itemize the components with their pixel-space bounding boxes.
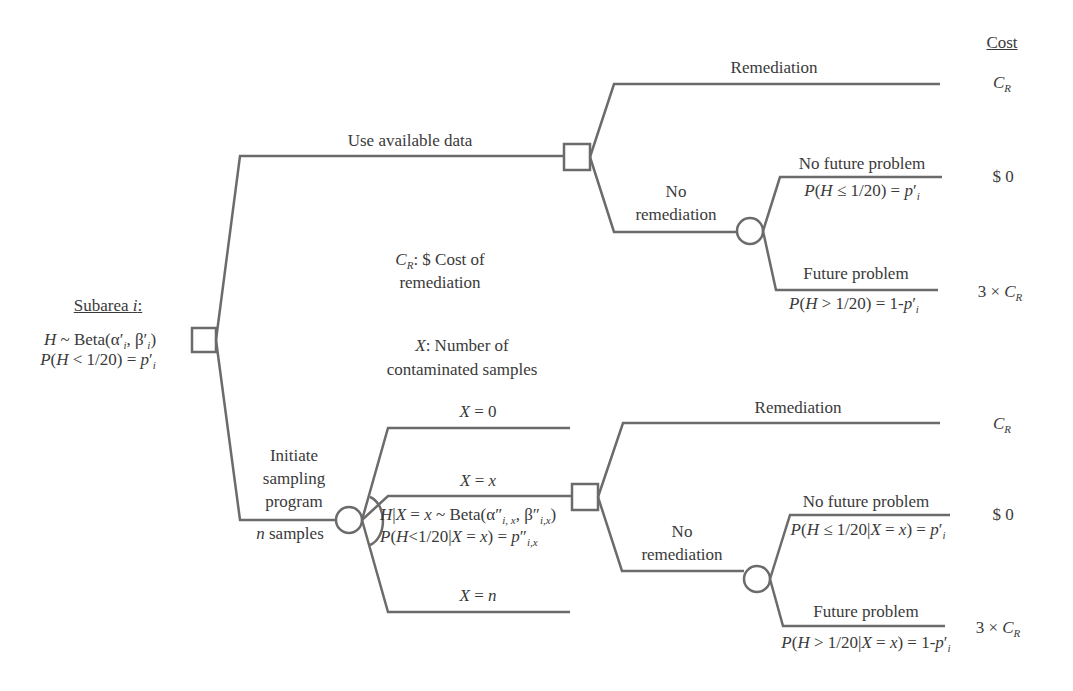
root-prob: P(H < 1/20) = p′i bbox=[40, 350, 156, 375]
cost-3cr-top: 3 × CR bbox=[978, 282, 1023, 307]
cr-definition-line2: remediation bbox=[399, 273, 480, 293]
branch-remediation-top[interactable] bbox=[590, 84, 940, 157]
cost-3cr-bottom: 3 × CR bbox=[976, 618, 1021, 643]
decision-tree-lines bbox=[0, 0, 1073, 691]
outcome-x-x: X = x bbox=[460, 471, 496, 491]
outcome-x-0: X = 0 bbox=[460, 402, 497, 422]
cost-cr-bottom: CR bbox=[993, 414, 1011, 439]
sampling-decision-node[interactable] bbox=[572, 484, 598, 510]
root-title: Subarea i: bbox=[74, 296, 142, 316]
program-label: program bbox=[265, 492, 323, 512]
no-future-problem-prob-top: P(H ≤ 1/20) = p′i bbox=[804, 181, 919, 206]
available-data-decision-node[interactable] bbox=[564, 144, 590, 170]
cr-definition-line1: CR: $ Cost of bbox=[395, 250, 484, 275]
future-problem-label-bottom: Future problem bbox=[813, 602, 918, 622]
no-future-problem-label-bottom: No future problem bbox=[803, 492, 930, 512]
use-available-data-label: Use available data bbox=[348, 131, 473, 151]
no-future-problem-prob-bottom: P(H ≤ 1/20|X = x) = p′i bbox=[791, 520, 946, 545]
x-definition-line2: contaminated samples bbox=[387, 360, 538, 380]
sampling-label: sampling bbox=[263, 469, 325, 489]
x-definition-line1: X: Number of bbox=[415, 336, 508, 356]
available-data-chance-node[interactable] bbox=[737, 218, 763, 244]
root-decision-node[interactable] bbox=[192, 328, 216, 352]
future-problem-label-top: Future problem bbox=[803, 264, 908, 284]
no-future-problem-label-top: No future problem bbox=[799, 154, 926, 174]
initiate-label: Initiate bbox=[270, 446, 318, 466]
outcome-x-n: X = n bbox=[460, 586, 497, 606]
cost-cr-top: CR bbox=[993, 73, 1011, 98]
remediation-word-bottom: remediation bbox=[641, 545, 722, 565]
sampling-chance-node[interactable] bbox=[336, 507, 362, 533]
branch-remediation-bottom[interactable] bbox=[598, 423, 940, 497]
sampling-outcome-chance-node[interactable] bbox=[744, 566, 770, 592]
cost-header: Cost bbox=[986, 33, 1017, 53]
no-label-top: No bbox=[666, 182, 687, 202]
future-problem-prob-top: P(H > 1/20) = 1-p′i bbox=[789, 294, 919, 319]
remediation-label-top: Remediation bbox=[731, 58, 818, 78]
posterior-probability: P(H<1/20|X = x) = p″i,x bbox=[380, 527, 538, 552]
remediation-label-bottom: Remediation bbox=[755, 398, 842, 418]
n-samples-label: n samples bbox=[256, 524, 324, 544]
cost-zero-bottom: $ 0 bbox=[992, 505, 1013, 525]
branch-use-available-data[interactable] bbox=[216, 156, 564, 340]
no-label-bottom: No bbox=[672, 522, 693, 542]
remediation-word-top: remediation bbox=[635, 205, 716, 225]
future-problem-prob-bottom: P(H > 1/20|X = x) = 1-p′i bbox=[781, 633, 950, 658]
cost-zero-top: $ 0 bbox=[992, 167, 1013, 187]
